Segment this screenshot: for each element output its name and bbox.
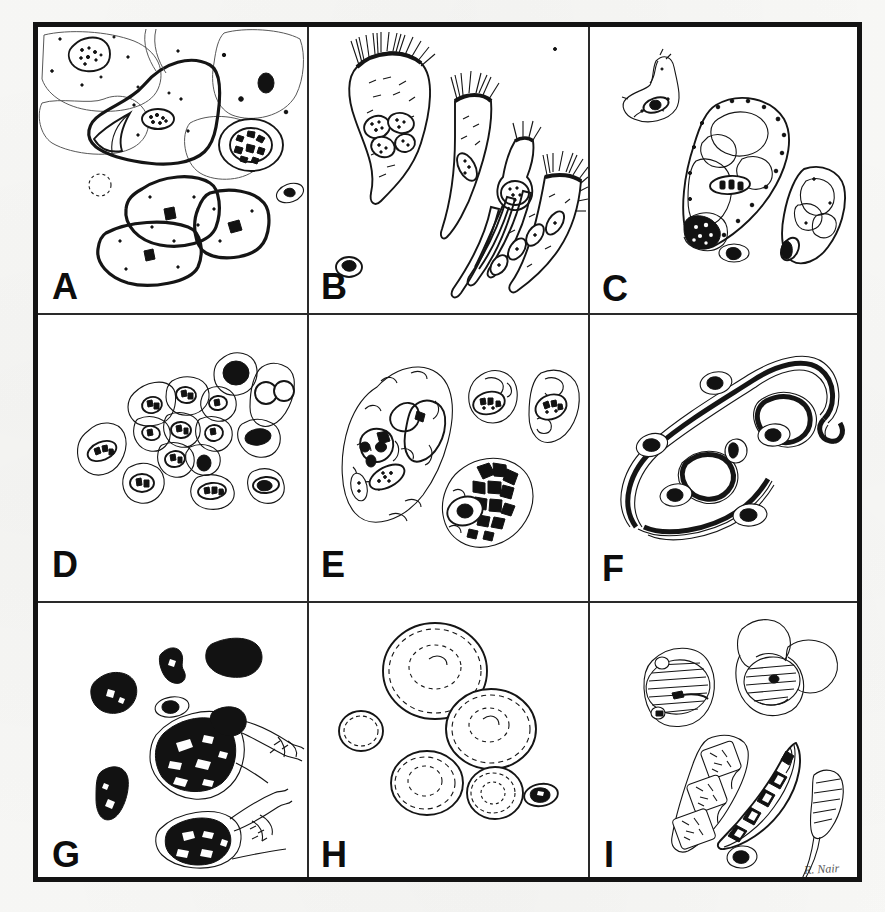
cell-nucleus [223, 361, 249, 385]
panel-B: B [309, 27, 588, 313]
panel-A-drawing [38, 27, 307, 313]
panel-letter-C: C [602, 271, 628, 307]
cell-nucleus [274, 381, 294, 401]
artist-signature: R. Nair [803, 861, 839, 878]
panel-I: I R. Nair [590, 603, 857, 887]
basal-granule-mass [684, 216, 720, 249]
cell-nucleus [164, 207, 176, 220]
chromatin-granules [80, 47, 102, 66]
cell-nucleus [85, 437, 120, 465]
basal-cell-cluster [128, 377, 236, 477]
panel-D: D [38, 315, 307, 601]
ghost-cell [89, 174, 111, 196]
panel-letter-I: I [604, 837, 614, 873]
panel-F-drawing [590, 315, 857, 601]
panel-letter-B: B [321, 269, 347, 305]
panel-E: E [309, 315, 588, 601]
panel-letter-F: F [602, 551, 624, 587]
carbon-load [165, 818, 231, 865]
cell-nucleus [258, 73, 274, 93]
panel-C-drawing [590, 27, 857, 313]
cell-nucleus [142, 109, 174, 129]
panel-F: F [590, 315, 857, 601]
panel-A: A [38, 27, 307, 313]
figure-frame: A [33, 22, 862, 882]
cluster-nuclei [141, 386, 228, 469]
panel-B-drawing [309, 27, 588, 313]
panel-letter-G: G [52, 837, 80, 873]
yeast-body [391, 751, 463, 815]
panel-E-drawing [309, 315, 588, 601]
panel-letter-D: D [52, 547, 78, 583]
pollen-grain [736, 620, 837, 716]
panel-letter-E: E [321, 547, 345, 583]
cell-nucleus [144, 249, 155, 261]
cell-nucleus [197, 455, 211, 471]
nuclei-cluster [362, 111, 417, 161]
yeast-body [446, 689, 536, 769]
figure-plate: A [0, 0, 885, 912]
cell-nucleus [244, 427, 272, 446]
panel-letter-A: A [52, 269, 78, 305]
mucus-vacuole [711, 112, 768, 156]
carbon-aggregate [206, 638, 262, 677]
carbon-aggregate [96, 767, 128, 820]
panel-I-drawing [590, 603, 857, 887]
pollen-grain [643, 648, 715, 726]
panel-letter-H: H [321, 837, 347, 873]
cell-nucleus [348, 472, 369, 503]
panel-D-drawing [38, 315, 307, 601]
yeast-body [467, 767, 523, 819]
yeast-body [339, 711, 383, 751]
panel-G: G [38, 603, 307, 887]
cell-nucleus [228, 220, 242, 233]
panel-H-drawing [309, 603, 588, 887]
panel-C: C [590, 27, 857, 313]
panel-H: H [309, 603, 588, 887]
nucleolus [457, 504, 473, 518]
